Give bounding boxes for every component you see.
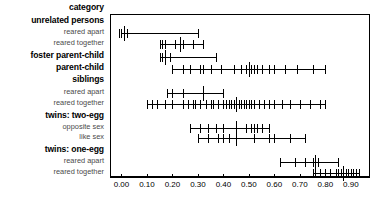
range-line bbox=[160, 44, 203, 45]
category-label: reared apart bbox=[64, 87, 104, 96]
data-point-tick bbox=[223, 100, 224, 109]
data-point-tick bbox=[262, 65, 263, 74]
category-label: category bbox=[69, 3, 104, 12]
data-point-tick bbox=[147, 100, 148, 109]
category-label: reared apart bbox=[64, 27, 104, 36]
x-axis-tick bbox=[325, 174, 326, 178]
data-point-tick bbox=[152, 100, 153, 109]
category-label: like sex bbox=[79, 132, 104, 141]
data-point-tick bbox=[229, 100, 230, 109]
x-axis-tick bbox=[198, 174, 199, 178]
category-label: reared together bbox=[53, 38, 104, 47]
data-point-tick bbox=[285, 65, 286, 74]
data-point-tick bbox=[160, 53, 161, 62]
data-point-tick bbox=[190, 65, 191, 74]
data-point-tick bbox=[274, 100, 275, 109]
x-axis-line bbox=[110, 177, 370, 178]
data-point-tick bbox=[183, 89, 184, 98]
data-point-tick bbox=[160, 40, 161, 49]
data-point-tick bbox=[231, 100, 232, 109]
data-point-tick bbox=[241, 100, 242, 109]
category-label: reared apart bbox=[64, 156, 104, 165]
data-point-tick bbox=[234, 100, 235, 109]
data-point-tick bbox=[183, 65, 184, 74]
data-point-tick bbox=[188, 100, 189, 109]
range-line bbox=[167, 93, 223, 94]
x-axis-tick-label: 0.20 bbox=[165, 180, 181, 189]
data-point-tick bbox=[195, 100, 196, 109]
data-point-tick bbox=[338, 158, 339, 167]
x-axis-tick-label: 0.40 bbox=[216, 180, 232, 189]
data-point-tick bbox=[226, 100, 227, 109]
data-point-tick bbox=[127, 29, 128, 38]
data-point-tick bbox=[165, 100, 166, 109]
data-point-tick bbox=[320, 100, 321, 109]
data-point-tick bbox=[280, 158, 281, 167]
range-line bbox=[160, 57, 216, 58]
data-point-tick bbox=[198, 134, 199, 143]
data-point-tick bbox=[241, 65, 242, 74]
data-point-tick bbox=[297, 65, 298, 74]
data-point-tick bbox=[310, 100, 311, 109]
data-point-tick bbox=[157, 100, 158, 109]
data-point-tick bbox=[175, 40, 176, 49]
data-point-tick bbox=[264, 100, 265, 109]
data-point-tick bbox=[325, 100, 326, 109]
data-point-tick bbox=[300, 100, 301, 109]
plot-area bbox=[110, 14, 370, 177]
data-point-tick bbox=[244, 100, 245, 109]
category-label: opposite sex bbox=[63, 122, 105, 131]
category-label: parent-child bbox=[56, 63, 104, 72]
x-axis-tick bbox=[249, 174, 250, 178]
x-axis-tick bbox=[172, 174, 173, 178]
category-label-column: categoryunrelated personsreared apartrea… bbox=[0, 0, 108, 203]
data-point-tick bbox=[183, 40, 184, 49]
category-label: unrelated persons bbox=[31, 16, 104, 25]
data-row bbox=[110, 38, 370, 50]
data-point-tick bbox=[167, 89, 168, 98]
data-point-tick bbox=[162, 53, 163, 62]
data-point-tick bbox=[295, 158, 296, 167]
x-axis-tick bbox=[223, 174, 224, 178]
data-point-tick bbox=[325, 65, 326, 74]
data-point-tick bbox=[213, 100, 214, 109]
median-marker bbox=[180, 37, 181, 52]
category-label: twins: two-egg bbox=[45, 111, 104, 120]
data-point-tick bbox=[305, 134, 306, 143]
range-line bbox=[280, 162, 339, 163]
data-point-tick bbox=[305, 158, 306, 167]
category-label: reared together bbox=[53, 167, 104, 176]
data-point-tick bbox=[223, 134, 224, 143]
data-point-tick bbox=[223, 89, 224, 98]
data-point-tick bbox=[254, 100, 255, 109]
data-point-tick bbox=[203, 65, 204, 74]
data-point-tick bbox=[203, 40, 204, 49]
data-row bbox=[110, 132, 370, 144]
median-marker bbox=[249, 62, 250, 77]
data-point-tick bbox=[218, 134, 219, 143]
data-point-tick bbox=[183, 100, 184, 109]
data-point-tick bbox=[318, 158, 319, 167]
x-axis-tick-label: 0.00 bbox=[114, 180, 130, 189]
data-point-tick bbox=[172, 100, 173, 109]
chart-root: categoryunrelated personsreared apartrea… bbox=[0, 0, 376, 203]
data-point-tick bbox=[211, 100, 212, 109]
category-label: twins: one-egg bbox=[45, 145, 104, 154]
x-axis-tick-label: 0.70 bbox=[292, 180, 308, 189]
x-axis-tick bbox=[300, 174, 301, 178]
data-point-tick bbox=[269, 100, 270, 109]
category-label: foster parent-child bbox=[30, 51, 104, 60]
data-point-tick bbox=[259, 100, 260, 109]
data-point-tick bbox=[269, 65, 270, 74]
data-point-tick bbox=[198, 29, 199, 38]
data-point-tick bbox=[257, 65, 258, 74]
x-axis-tick bbox=[121, 174, 122, 178]
data-point-tick bbox=[162, 40, 163, 49]
data-point-tick bbox=[254, 134, 255, 143]
data-point-tick bbox=[234, 65, 235, 74]
median-marker bbox=[236, 97, 237, 112]
data-point-tick bbox=[229, 134, 230, 143]
x-axis: 0.000.100.200.300.400.500.600.700.800.90 bbox=[110, 177, 370, 203]
data-point-tick bbox=[313, 65, 314, 74]
data-point-tick bbox=[251, 65, 252, 74]
